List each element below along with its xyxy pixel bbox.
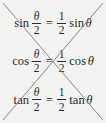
cosine-left-denominator: 2 [33,62,41,74]
cosine-left-fraction: θ 2 [32,48,41,75]
sine-equals-sign: = [46,17,53,30]
sine-argument-theta: θ [86,17,92,30]
tangent-argument-theta: θ [86,94,92,107]
sine-right-fraction: 1 2 [57,10,66,37]
tangent-right-denominator: 2 [58,101,66,113]
tangent-right-numerator: 1 [58,86,66,98]
sine-function-label-right: sin [69,17,84,30]
equation-row-cosine: cos θ 2 = 1 2 cos θ [12,48,94,75]
equation-stack: sin θ 2 = 1 2 sin θ cos θ 2 = [0,0,106,123]
cosine-left-numerator: θ [33,48,41,60]
equation-row-tangent: tan θ 2 = 1 2 tan θ [14,86,93,113]
cosine-function-label: cos [12,55,29,68]
cosine-argument-theta: θ [88,55,94,68]
tangent-left-fraction: θ 2 [32,86,41,113]
tangent-left-numerator: θ [33,86,41,98]
tangent-equals-sign: = [46,94,53,107]
crossed-out-identities-figure: sin θ 2 = 1 2 sin θ cos θ 2 = [0,0,106,123]
cosine-right-numerator: 1 [58,48,66,60]
tangent-left-denominator: 2 [33,101,41,113]
tangent-function-label: tan [14,94,30,107]
sine-left-denominator: 2 [33,24,41,36]
sine-left-fraction: θ 2 [32,10,41,37]
sine-right-numerator: 1 [58,10,66,22]
tangent-right-fraction: 1 2 [57,86,66,113]
sine-right-denominator: 2 [58,24,66,36]
cosine-function-label-right: cos [69,55,86,68]
cosine-right-denominator: 2 [58,62,66,74]
cosine-right-fraction: 1 2 [57,48,66,75]
tangent-function-label-right: tan [69,94,85,107]
cosine-equals-sign: = [46,55,53,68]
sine-left-numerator: θ [33,10,41,22]
equation-row-sine: sin θ 2 = 1 2 sin θ [14,10,91,37]
sine-function-label: sin [14,17,29,30]
